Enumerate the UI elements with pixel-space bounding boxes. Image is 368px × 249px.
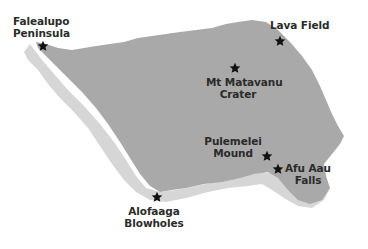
place-label-alofaaga[interactable]: Alofaaga Blowholes (122, 205, 186, 229)
star-icon[interactable] (272, 163, 284, 175)
place-label-line: Lava Field (270, 19, 329, 31)
place-label-line: Falealupo (13, 15, 70, 27)
star-icon[interactable] (151, 191, 163, 203)
place-label-afu-aau[interactable]: Afu Aau Falls (284, 162, 332, 186)
star-icon[interactable] (229, 62, 241, 74)
place-label-line: Mt Matavanu (206, 76, 270, 88)
place-label-mt-matavanu[interactable]: Mt Matavanu Crater (206, 76, 270, 100)
place-label-line: Alofaaga (122, 205, 186, 217)
place-label-line: Blowholes (122, 217, 186, 229)
place-label-pulemelei[interactable]: Pulemelei Mound (204, 135, 262, 159)
place-label-line: Pulemelei (204, 135, 262, 147)
star-icon[interactable] (274, 35, 286, 47)
place-label-line: Peninsula (13, 27, 70, 39)
star-icon[interactable] (37, 40, 49, 52)
place-label-line: Mound (204, 147, 262, 159)
place-label-line: Afu Aau (284, 162, 332, 174)
place-label-lava-field[interactable]: Lava Field (270, 19, 329, 31)
place-label-line: Falls (284, 174, 332, 186)
place-label-line: Crater (206, 88, 270, 100)
star-icon[interactable] (261, 150, 273, 162)
place-label-falealupo[interactable]: Falealupo Peninsula (13, 15, 70, 39)
